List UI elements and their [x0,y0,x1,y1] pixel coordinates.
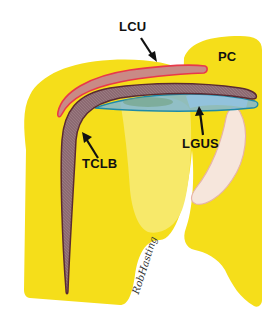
lcu-arrow [141,38,157,62]
label-lcu: LCU [119,20,146,33]
label-pc: PC [218,50,236,63]
label-lgus: LGUS [182,137,219,150]
lgus-overlap [123,97,173,107]
label-tclb: TCLB [82,157,117,170]
shoulder-diagram: LCU PC LGUS TCLB RobHasting [0,0,279,320]
